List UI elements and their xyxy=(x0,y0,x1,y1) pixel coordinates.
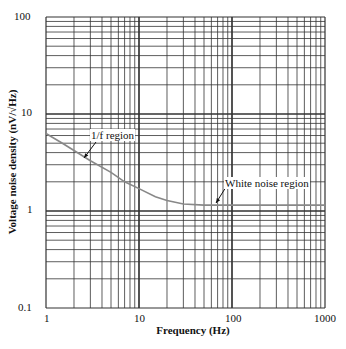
y-tick-0.1: 0.1 xyxy=(18,301,32,313)
x-tick-100: 100 xyxy=(225,312,242,324)
plot-area xyxy=(0,0,346,349)
x-axis-label: Frequency (Hz) xyxy=(0,324,346,336)
x-tick-10: 10 xyxy=(134,312,145,324)
y-tick-10: 10 xyxy=(21,106,32,118)
y-tick-1: 1 xyxy=(27,203,33,215)
y-tick-100: 100 xyxy=(14,10,31,22)
annotation-1f-region: 1/f region xyxy=(90,129,135,141)
y-axis-label: Voltage noise density (nV/√Hz) xyxy=(6,90,18,235)
x-tick-1: 1 xyxy=(44,312,50,324)
annotation-white-noise: White noise region xyxy=(224,177,310,189)
x-tick-1000: 1000 xyxy=(314,312,336,324)
